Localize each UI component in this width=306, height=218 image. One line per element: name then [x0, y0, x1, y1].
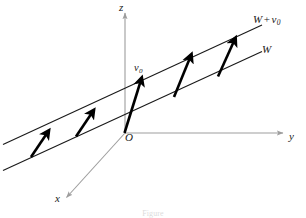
axis-label-x: x — [55, 193, 60, 204]
plus-operator: + — [264, 13, 270, 25]
vector-3-v0 — [125, 80, 142, 133]
subspace-lines-group — [3, 25, 262, 171]
axis-label-z: z — [119, 2, 123, 13]
figure-canvas — [0, 0, 306, 218]
w-plus-base: W — [253, 13, 262, 25]
v0-subscript: 0 — [139, 67, 143, 75]
line-W-plus-v0 — [3, 25, 262, 145]
axes-group — [67, 13, 284, 198]
x-axis-line — [67, 133, 126, 198]
vector-4 — [174, 57, 191, 98]
origin-label: O — [125, 132, 133, 143]
w-plus-v-subscript: 0 — [277, 18, 281, 27]
v0-base: v — [134, 62, 139, 73]
line-label-w-plus-v0: W+v0 — [253, 14, 280, 25]
figure-container: z y x O v0 W+v0 W Figure — [0, 0, 306, 218]
line-label-w: W — [262, 44, 271, 55]
figure-caption: Figure — [0, 209, 306, 218]
axis-label-y: y — [289, 131, 294, 142]
vector-5 — [218, 40, 235, 77]
vector-label-v0: v0 — [134, 63, 143, 74]
w-plus-v-base: v — [271, 13, 276, 25]
